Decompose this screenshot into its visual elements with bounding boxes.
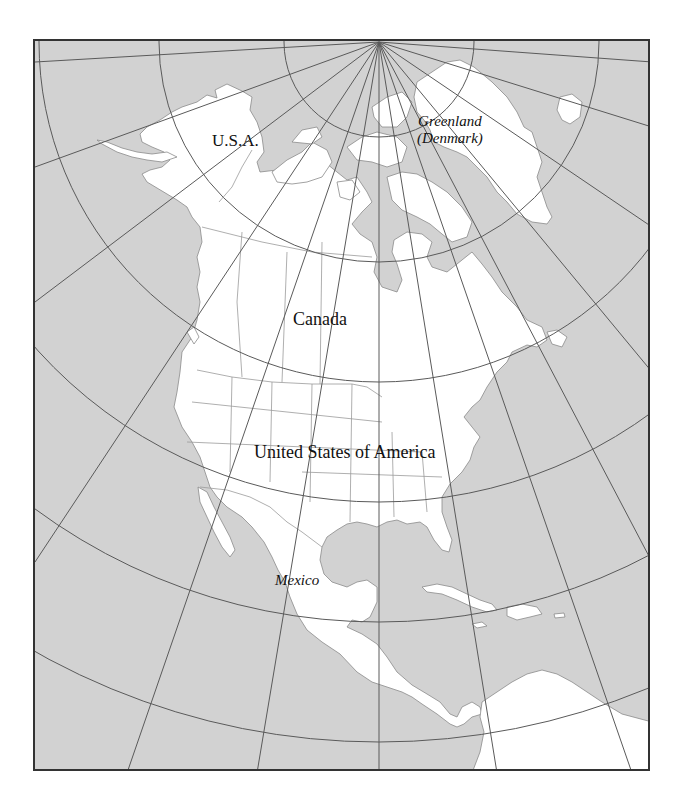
label-usa-alaska: U.S.A. [212, 131, 259, 151]
label-canada: Canada [293, 309, 347, 330]
label-greenland: Greenland (Denmark) [417, 113, 483, 147]
map-frame: U.S.A. Greenland (Denmark) Canada United… [33, 39, 650, 771]
puerto-rico [554, 613, 565, 618]
label-mexico: Mexico [275, 572, 319, 589]
label-greenland-name: Greenland [417, 113, 483, 130]
label-greenland-country: (Denmark) [417, 130, 483, 147]
label-united-states: United States of America [254, 442, 435, 463]
map-canvas [35, 41, 650, 771]
